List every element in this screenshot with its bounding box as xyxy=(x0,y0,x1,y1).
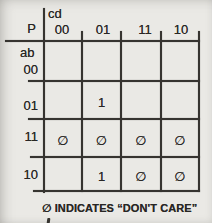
output-variable-label: P xyxy=(16,22,36,36)
kmap-cell-r01-c10 xyxy=(162,82,198,118)
kmap-cell-r00-c11 xyxy=(122,42,160,80)
column-label-10: 10 xyxy=(166,23,196,37)
cropped-character-mark xyxy=(47,218,51,223)
kmap-cell-r10-c01: 1 xyxy=(83,158,120,190)
row-label-00: 00 xyxy=(12,63,38,77)
kmap-cell-r10-c10: ∅ xyxy=(162,158,198,190)
karnaugh-map-diagram: cd P 00 01 11 10 ab 00 01 11 10 1 ∅ ∅ ∅ … xyxy=(0,0,212,223)
kmap-cell-r11-c01: ∅ xyxy=(83,120,120,156)
dont-care-legend: ∅ INDICATES “DON'T CARE” xyxy=(42,202,194,215)
kmap-cell-r01-c11 xyxy=(122,82,160,118)
kmap-cell-r11-c11: ∅ xyxy=(122,120,160,156)
kmap-cell-r00-c10 xyxy=(162,42,198,80)
column-label-00: 00 xyxy=(47,23,77,37)
column-variables-label: cd xyxy=(48,7,62,21)
grid-hline-bottom xyxy=(33,190,200,192)
kmap-cell-r01-c01: 1 xyxy=(83,82,120,118)
row-variables-label: ab xyxy=(20,46,34,60)
kmap-cell-r01-c00 xyxy=(45,82,81,118)
kmap-cell-r10-c11: ∅ xyxy=(122,158,160,190)
row-label-10: 10 xyxy=(12,168,38,182)
row-label-11: 11 xyxy=(12,130,38,144)
grid-vline-right xyxy=(198,31,200,192)
kmap-cell-r10-c00 xyxy=(45,158,81,190)
kmap-cell-r11-c00: ∅ xyxy=(45,120,81,156)
row-label-01: 01 xyxy=(12,99,38,113)
kmap-cell-r11-c10: ∅ xyxy=(162,120,198,156)
column-label-01: 01 xyxy=(88,23,118,37)
kmap-cell-r00-c01 xyxy=(83,42,120,80)
kmap-cell-r00-c00 xyxy=(45,42,81,80)
column-label-11: 11 xyxy=(130,23,160,37)
